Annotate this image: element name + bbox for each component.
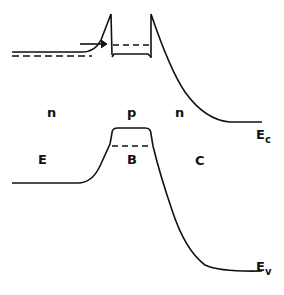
- emitter-region-label: E: [38, 153, 47, 166]
- conduction-band-label: Ec: [256, 128, 271, 141]
- collector-type-label: n: [175, 106, 184, 119]
- base-region-label: B: [127, 153, 137, 166]
- valence-band-label: Ev: [256, 260, 271, 273]
- valence-band: [12, 128, 262, 271]
- emitter-type-label: n: [47, 106, 56, 119]
- conduction-band-emitter: [12, 14, 112, 55]
- base-type-label: p: [127, 106, 136, 119]
- band-diagram: [0, 0, 284, 295]
- conduction-band-collector: [151, 14, 262, 122]
- base-well-bottom: [112, 54, 151, 57]
- collector-region-label: C: [195, 154, 205, 167]
